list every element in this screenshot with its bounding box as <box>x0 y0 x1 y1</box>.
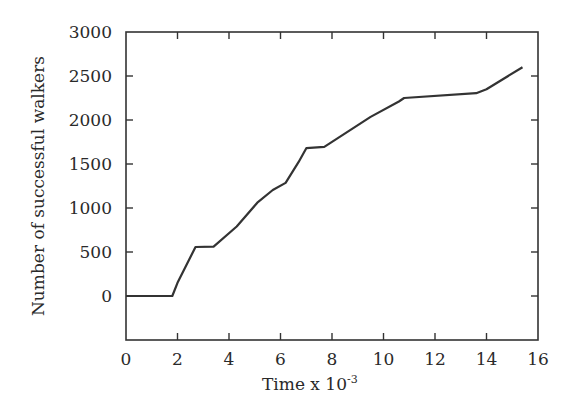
axes <box>126 32 538 340</box>
y-axis-label: Number of successful walkers <box>28 56 48 316</box>
y-tick-label: 1500 <box>69 154 112 174</box>
y-tick-label: 1000 <box>69 198 112 218</box>
plot-frame <box>126 32 538 340</box>
x-tick-label: 10 <box>373 349 395 369</box>
y-tick-label: 500 <box>80 242 112 262</box>
x-tick-label: 16 <box>527 349 549 369</box>
x-tick-label: 14 <box>476 349 498 369</box>
x-tick-label: 12 <box>424 349 446 369</box>
x-tick-label: 6 <box>275 349 286 369</box>
x-tick-label: 8 <box>327 349 338 369</box>
line-chart: 0246810121416050010001500200025003000 Ti… <box>0 0 569 413</box>
tick-labels: 0246810121416050010001500200025003000 <box>69 22 549 369</box>
chart: 0246810121416050010001500200025003000 Ti… <box>0 0 569 413</box>
y-tick-label: 2000 <box>69 110 112 130</box>
x-tick-label: 4 <box>224 349 235 369</box>
y-tick-label: 3000 <box>69 22 112 42</box>
x-axis-label: Time x 10-3 <box>262 373 358 394</box>
y-tick-label: 2500 <box>69 66 112 86</box>
x-tick-label: 0 <box>121 349 132 369</box>
data-line <box>126 67 523 296</box>
y-tick-label: 0 <box>101 286 112 306</box>
ticks <box>126 32 538 340</box>
x-axis-label-exponent: -3 <box>347 373 358 386</box>
x-tick-label: 2 <box>172 349 183 369</box>
x-axis-label-main: Time x 10 <box>262 374 347 394</box>
